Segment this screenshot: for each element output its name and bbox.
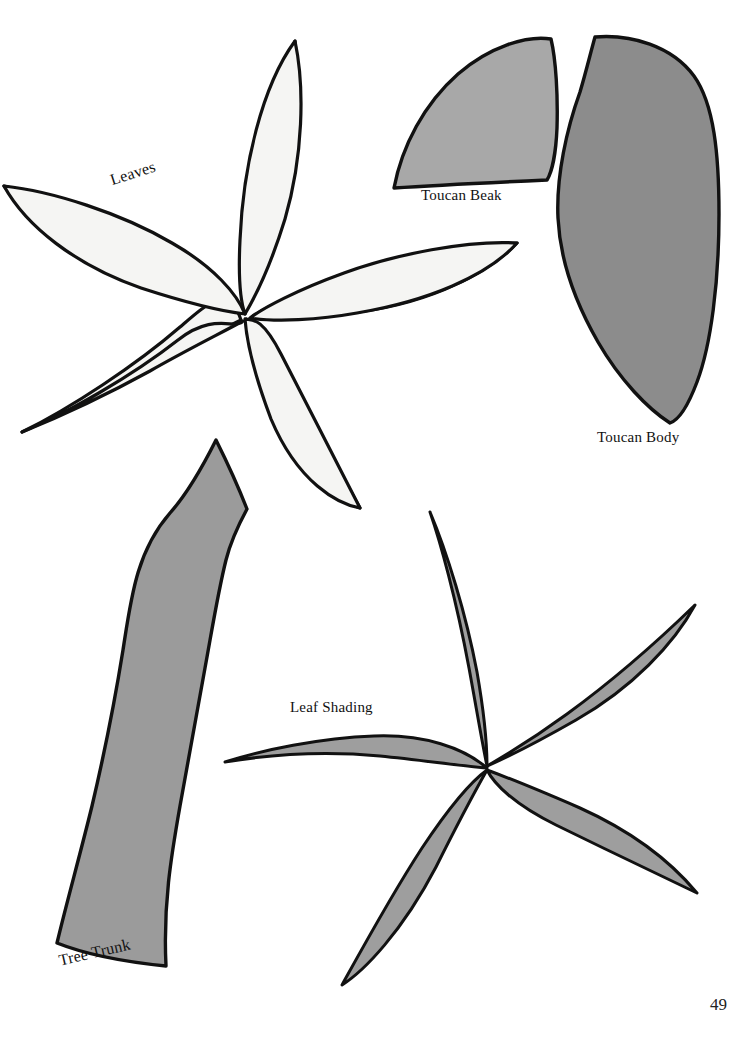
leaf-petal-lower-left (22, 300, 241, 432)
label-toucan-body: Toucan Body (597, 429, 679, 446)
leaf-petal-right-shape (250, 243, 517, 320)
shape-toucan-beak (394, 38, 557, 188)
pattern-page: Leaves Toucan Beak Toucan Body Leaf Shad… (0, 0, 749, 1039)
shape-tree-trunk (57, 440, 247, 966)
shape-leaf-shading (225, 512, 697, 985)
leaf-shading-sliver-left (225, 736, 487, 768)
leaf-shading-sliver-bottom-right (487, 770, 697, 893)
label-leaf-shading: Leaf Shading (290, 699, 373, 716)
page-number: 49 (710, 995, 727, 1015)
leaf-petal-top-shape (239, 41, 301, 314)
pattern-canvas (0, 0, 749, 1039)
leaf-shading-sliver-right (487, 605, 695, 766)
label-toucan-beak: Toucan Beak (421, 187, 502, 204)
leaf-petal-upper-left-shape (4, 186, 245, 314)
shape-toucan-body (558, 37, 719, 423)
leaf-petal-bottom-shape (245, 319, 360, 508)
leaf-petal-lower-left-shape (22, 321, 243, 432)
leaf-shading-sliver-bottom-left (342, 770, 487, 985)
leaf-shading-sliver-top (430, 512, 487, 766)
